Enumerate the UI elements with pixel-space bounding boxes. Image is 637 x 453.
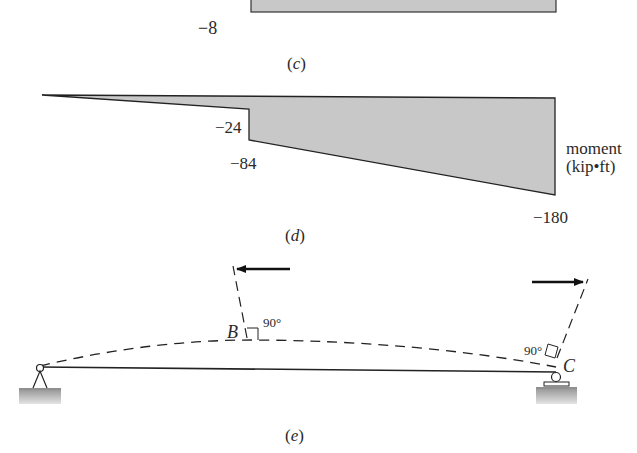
moment-end-label: −180 [533,209,568,226]
right-angle-b-icon [247,328,258,340]
elastic-curve [40,340,556,367]
right-angle-c-icon [545,344,558,358]
moment-diagram [42,95,555,195]
moment-axis-label: moment [566,140,622,157]
point-b-label: B [227,323,238,341]
angle-b-label: 90° [263,316,281,329]
moment-units-label: (kip•ft) [566,158,615,175]
caption-e: (e) [285,427,304,444]
shear-area [251,0,556,12]
rotation-line-c [557,279,588,358]
caption-c: (c) [287,55,306,72]
caption-paren: ) [298,426,304,445]
shear-diagram [251,0,556,12]
deflected-beam-diagram [19,266,588,404]
angle-c-label: 90° [524,344,542,357]
caption-paren: ) [300,54,306,73]
moment-area [42,95,555,195]
caption-paren: ) [299,226,305,245]
moment-step-top-label: −24 [215,119,242,136]
caption-d: (d) [285,227,305,244]
roller-support-icon [536,373,577,405]
moment-step-bottom-label: −84 [230,155,257,172]
point-c-label: C [563,357,575,375]
pin-support-icon [19,365,61,405]
caption-letter: d [291,226,300,245]
shear-min-label: −8 [198,19,217,37]
beam-line [40,367,556,372]
